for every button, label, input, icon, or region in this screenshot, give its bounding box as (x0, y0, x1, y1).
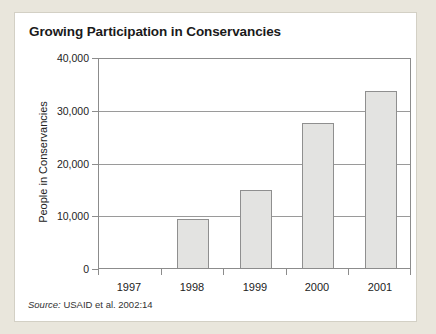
source-text: USAID et al. 2002:14 (63, 299, 152, 310)
plot-area (98, 58, 411, 269)
chart-panel: Growing Participation in Conservancies P… (14, 12, 417, 322)
bar-2000 (302, 123, 334, 268)
bar-2001 (365, 91, 397, 268)
y-tick-mark (92, 111, 98, 112)
y-tick-label-40000: 40,000 (23, 52, 89, 64)
y-tick-mark (92, 216, 98, 217)
x-tick-mark (348, 269, 349, 275)
y-tick-label-10000: 10,000 (23, 210, 89, 222)
x-tick-mark (161, 269, 162, 275)
y-tick-label-30000: 30,000 (23, 105, 89, 117)
x-tick-label-1999: 1999 (224, 281, 286, 293)
bar-1998 (177, 219, 209, 268)
source-prefix: Source: (28, 299, 61, 310)
x-tick-label-1997: 1997 (98, 281, 160, 293)
x-tick-mark (286, 269, 287, 275)
x-tick-mark (410, 269, 411, 275)
chart-title: Growing Participation in Conservancies (29, 24, 281, 39)
y-tick-mark (92, 58, 98, 59)
x-tick-mark (98, 269, 99, 275)
gridline-30000 (99, 111, 410, 112)
y-tick-label-0: 0 (23, 263, 89, 275)
y-tick-mark (92, 164, 98, 165)
x-tick-label-2001: 2001 (349, 281, 411, 293)
x-tick-label-1998: 1998 (161, 281, 223, 293)
x-tick-mark (223, 269, 224, 275)
gridline-20000 (99, 164, 410, 165)
bar-1999 (240, 190, 272, 268)
y-tick-label-20000: 20,000 (23, 158, 89, 170)
source-line: Source: USAID et al. 2002:14 (28, 299, 153, 310)
x-tick-label-2000: 2000 (286, 281, 348, 293)
